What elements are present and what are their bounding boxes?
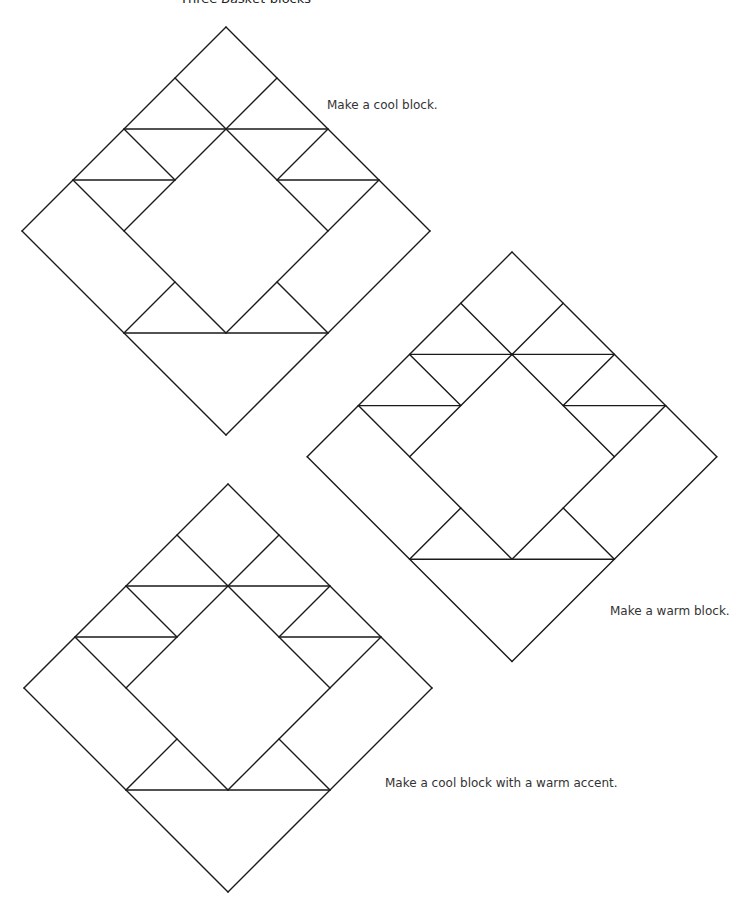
block-seam-line xyxy=(563,354,614,405)
block-seam-line xyxy=(124,129,175,180)
block-seam-line xyxy=(277,129,328,180)
block-seam-line xyxy=(73,180,226,333)
block-seam-line xyxy=(410,354,461,405)
block-seam-line xyxy=(75,637,228,790)
block-seam-line xyxy=(177,535,228,586)
basket-block-1 xyxy=(22,27,430,435)
block-seam-line xyxy=(279,586,330,637)
caption-block-3: Make a cool block with a warm accent. xyxy=(385,776,618,790)
block-seam-line xyxy=(126,739,177,790)
block-seam-line xyxy=(512,406,666,560)
block-seam-line xyxy=(512,303,563,354)
block-seam-line xyxy=(226,78,277,129)
block-seam-line xyxy=(461,303,512,354)
block-seam-line xyxy=(410,508,461,559)
block-seam-line xyxy=(124,282,175,333)
quilt-blocks-drawing xyxy=(0,0,745,903)
block-seam-line xyxy=(226,180,379,333)
basket-block-2 xyxy=(307,252,717,662)
block-seam-line xyxy=(175,78,226,129)
caption-block-2: Make a warm block. xyxy=(610,604,730,618)
block-seam-line xyxy=(228,535,279,586)
block-seam-line xyxy=(228,637,381,790)
block-seam-line xyxy=(358,406,512,560)
block-seam-line xyxy=(126,586,177,637)
block-seam-line xyxy=(563,508,614,559)
block-seam-line xyxy=(279,739,330,790)
block-seam-line xyxy=(277,282,328,333)
caption-block-1: Make a cool block. xyxy=(327,98,438,112)
basket-block-3 xyxy=(24,484,432,892)
